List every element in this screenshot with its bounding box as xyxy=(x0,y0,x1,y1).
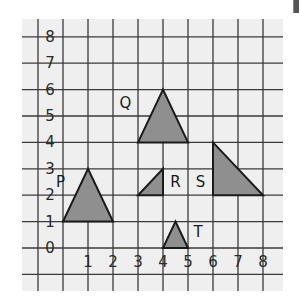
y-tick-label: 4 xyxy=(45,133,55,151)
shape-label-p: P xyxy=(56,173,65,191)
x-tick-label: 7 xyxy=(233,253,243,271)
y-tick-label: 8 xyxy=(45,28,55,46)
x-tick-label: 1 xyxy=(83,253,93,271)
x-tick-label: 3 xyxy=(133,253,143,271)
x-tick-label: 5 xyxy=(183,253,193,271)
y-tick-label: 7 xyxy=(45,54,55,72)
x-tick-label: 6 xyxy=(208,253,218,271)
grid-background xyxy=(22,19,283,291)
y-tick-label: 5 xyxy=(45,107,55,125)
coordinate-grid: 12345678012345678 PQRST xyxy=(0,0,299,300)
y-tick-label: 0 xyxy=(45,239,55,257)
y-tick-label: 3 xyxy=(45,160,55,178)
x-tick-label: 8 xyxy=(258,253,268,271)
shape-label-t: T xyxy=(192,223,203,241)
y-tick-label: 6 xyxy=(45,81,55,99)
y-tick-label: 1 xyxy=(45,213,55,231)
x-tick-label: 4 xyxy=(158,253,168,271)
shape-label-s: S xyxy=(196,173,206,191)
shape-label-r: R xyxy=(170,173,180,191)
y-tick-label: 2 xyxy=(45,186,55,204)
x-tick-label: 2 xyxy=(108,253,118,271)
shape-label-q: Q xyxy=(120,94,132,112)
